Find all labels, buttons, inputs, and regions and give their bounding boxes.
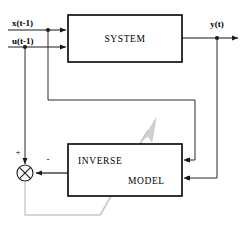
training-arrowhead [143, 118, 156, 142]
signal-label-x: x(t-1) [12, 18, 33, 28]
signal-label-u: u(t-1) [12, 36, 34, 46]
diagram-canvas: SYSTEM INVERSE MODEL + - x(t-1) [0, 0, 247, 229]
system-block-label: SYSTEM [104, 34, 145, 44]
junction-dot-model-input-x [186, 158, 190, 162]
minus-sign-label: - [47, 154, 50, 164]
error-summing-junction[interactable]: + - [15, 147, 49, 181]
inverse-model-label-line1: INVERSE [78, 156, 122, 166]
output-wire-y [182, 36, 238, 180]
block-diagram: SYSTEM INVERSE MODEL + - x(t-1) [0, 0, 247, 229]
system-block[interactable]: SYSTEM [68, 15, 182, 62]
signal-label-y: y(t) [210, 19, 224, 29]
plus-sign-label: + [15, 147, 20, 157]
inverse-model-block[interactable]: INVERSE MODEL [68, 144, 182, 196]
junction-dot-model-input-y [186, 176, 190, 180]
inverse-model-label-line2: MODEL [128, 176, 165, 186]
